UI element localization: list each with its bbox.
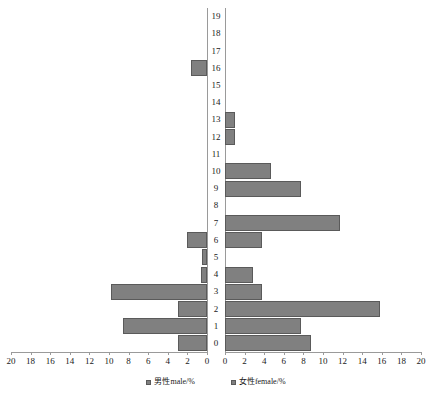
axis-tick xyxy=(343,352,344,355)
bar-male-1 xyxy=(123,318,207,334)
category-label-10: 10 xyxy=(207,167,225,176)
axis-tick xyxy=(362,352,363,355)
axis-tick xyxy=(148,352,149,355)
category-label-0: 0 xyxy=(207,339,225,348)
bar-female-10 xyxy=(225,163,271,179)
axis-tick xyxy=(264,352,265,355)
axis-tick xyxy=(109,352,110,355)
male-bars-group xyxy=(11,0,207,352)
bar-male-3 xyxy=(111,284,207,300)
legend-label-female: 女性female/% xyxy=(239,378,286,386)
bar-male-16 xyxy=(191,60,207,76)
category-label-15: 15 xyxy=(207,81,225,90)
chart-legend: 男性male/% 女性female/% xyxy=(0,374,432,390)
bar-female-3 xyxy=(225,284,262,300)
axis-tick-label: 20 xyxy=(410,357,432,366)
axis-tick xyxy=(50,352,51,355)
bar-male-2 xyxy=(178,301,207,317)
category-label-7: 7 xyxy=(207,219,225,228)
bar-female-6 xyxy=(225,232,262,248)
legend-swatch-icon xyxy=(231,380,236,385)
axis-tick xyxy=(129,352,130,355)
axis-tick xyxy=(89,352,90,355)
category-label-19: 19 xyxy=(207,12,225,21)
category-label-8: 8 xyxy=(207,201,225,210)
axis-tick xyxy=(284,352,285,355)
bar-female-7 xyxy=(225,215,340,231)
bar-male-6 xyxy=(187,232,207,248)
population-pyramid-chart: 012345678910111213141516171819 201816141… xyxy=(0,0,432,399)
legend-item-male: 男性male/% xyxy=(146,378,194,386)
axis-tick xyxy=(207,352,208,355)
female-bars-group xyxy=(225,0,421,352)
bar-female-0 xyxy=(225,335,311,351)
bar-female-2 xyxy=(225,301,380,317)
axis-tick xyxy=(323,352,324,355)
category-label-4: 4 xyxy=(207,270,225,279)
category-label-18: 18 xyxy=(207,29,225,38)
category-label-13: 13 xyxy=(207,115,225,124)
axis-tick xyxy=(245,352,246,355)
axis-tick xyxy=(401,352,402,355)
axis-tick xyxy=(303,352,304,355)
axis-tick xyxy=(70,352,71,355)
category-label-3: 3 xyxy=(207,287,225,296)
legend-item-female: 女性female/% xyxy=(231,378,286,386)
axis-tick xyxy=(11,352,12,355)
category-label-12: 12 xyxy=(207,133,225,142)
bar-female-4 xyxy=(225,267,253,283)
bar-female-9 xyxy=(225,181,301,197)
category-label-11: 11 xyxy=(207,150,225,159)
category-label-6: 6 xyxy=(207,236,225,245)
bar-female-13 xyxy=(225,112,235,128)
category-label-1: 1 xyxy=(207,322,225,331)
category-label-2: 2 xyxy=(207,305,225,314)
category-label-16: 16 xyxy=(207,64,225,73)
axis-tick xyxy=(382,352,383,355)
bar-male-0 xyxy=(178,335,207,351)
axis-tick xyxy=(421,352,422,355)
axis-tick xyxy=(187,352,188,355)
legend-swatch-icon xyxy=(146,380,151,385)
category-label-5: 5 xyxy=(207,253,225,262)
bar-female-1 xyxy=(225,318,301,334)
axis-tick xyxy=(168,352,169,355)
category-axis-labels: 012345678910111213141516171819 xyxy=(207,8,225,352)
bar-female-12 xyxy=(225,129,235,145)
category-label-14: 14 xyxy=(207,98,225,107)
axis-tick xyxy=(31,352,32,355)
legend-label-male: 男性male/% xyxy=(154,378,194,386)
axis-tick xyxy=(225,352,226,355)
plot-area: 012345678910111213141516171819 xyxy=(0,0,432,352)
category-label-17: 17 xyxy=(207,47,225,56)
category-label-9: 9 xyxy=(207,184,225,193)
